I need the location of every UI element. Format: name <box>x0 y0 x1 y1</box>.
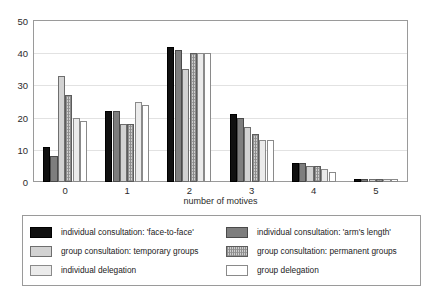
bar[interactable] <box>175 50 182 182</box>
legend-column-right: individual consultation: 'arm's length'g… <box>226 223 424 280</box>
bar[interactable] <box>361 179 368 182</box>
bar[interactable] <box>105 111 112 182</box>
bar[interactable] <box>376 179 383 182</box>
series-0-swatch <box>30 227 52 238</box>
bar[interactable] <box>135 102 142 183</box>
bar[interactable] <box>142 105 149 182</box>
legend: individual consultation: 'face-to-face'g… <box>22 215 421 286</box>
bar[interactable] <box>252 134 259 182</box>
bar[interactable] <box>204 53 211 182</box>
series-4-swatch <box>30 265 52 276</box>
series-2-swatch <box>30 246 52 257</box>
legend-item[interactable]: individual delegation <box>30 261 228 280</box>
bar[interactable] <box>182 69 189 182</box>
x-axis-tick-label: 5 <box>373 185 378 196</box>
x-axis-tick-label: 2 <box>187 185 192 196</box>
legend-item-label: individual consultation: 'face-to-face' <box>61 228 194 236</box>
bar[interactable] <box>329 172 336 182</box>
bar[interactable] <box>321 169 328 182</box>
series-5-swatch <box>226 265 248 276</box>
bar[interactable] <box>50 156 57 182</box>
bar[interactable] <box>73 118 80 182</box>
top-cutoff-caption <box>26 0 326 6</box>
y-axis: 01020304050 <box>0 20 33 183</box>
bar[interactable] <box>314 166 321 182</box>
legend-item[interactable]: group delegation <box>226 261 424 280</box>
bar-group <box>230 21 274 182</box>
legend-item-label: group consultation: temporary groups <box>61 247 198 255</box>
bar[interactable] <box>120 124 127 182</box>
y-axis-tick-label: 10 <box>17 144 28 155</box>
legend-item-label: group delegation <box>257 266 319 274</box>
legend-item-label: group consultation: permanent groups <box>257 247 397 255</box>
chart-screenshot: 01020304050 012345 number of motives ind… <box>0 0 443 301</box>
bar[interactable] <box>259 140 266 182</box>
y-axis-tick-label: 50 <box>17 16 28 27</box>
bar[interactable] <box>190 53 197 182</box>
bar[interactable] <box>80 121 87 182</box>
bar[interactable] <box>391 179 398 182</box>
x-axis-tick-label: 4 <box>311 185 316 196</box>
legend-item[interactable]: group consultation: permanent groups <box>226 242 424 261</box>
legend-column-left: individual consultation: 'face-to-face'g… <box>30 223 228 280</box>
legend-item[interactable]: individual consultation: 'face-to-face' <box>30 223 228 242</box>
x-axis-tick-label: 1 <box>125 185 130 196</box>
y-axis-tick-label: 20 <box>17 112 28 123</box>
y-axis-tick-label: 30 <box>17 80 28 91</box>
legend-item-label: individual consultation: 'arm's length' <box>257 228 391 236</box>
series-1-swatch <box>226 227 248 238</box>
bar[interactable] <box>299 163 306 182</box>
bar[interactable] <box>230 114 237 182</box>
bar[interactable] <box>197 53 204 182</box>
bar[interactable] <box>267 140 274 182</box>
y-axis-tick-label: 40 <box>17 48 28 59</box>
bar[interactable] <box>292 163 299 182</box>
bar[interactable] <box>306 166 313 182</box>
bar[interactable] <box>244 127 251 182</box>
bar-group <box>292 21 336 182</box>
bar[interactable] <box>65 95 72 182</box>
bar[interactable] <box>167 47 174 182</box>
bar[interactable] <box>127 124 134 182</box>
bar[interactable] <box>237 118 244 182</box>
legend-item-label: individual delegation <box>61 266 136 274</box>
bar-group <box>354 21 398 182</box>
legend-item[interactable]: individual consultation: 'arm's length' <box>226 223 424 242</box>
bars-layer <box>34 21 407 182</box>
bar[interactable] <box>58 76 65 182</box>
x-axis-title: number of motives <box>33 196 408 206</box>
bar[interactable] <box>43 147 50 182</box>
y-axis-tick-label: 0 <box>23 177 28 188</box>
bar-group <box>105 21 149 182</box>
bar[interactable] <box>383 179 390 182</box>
x-axis-tick-label: 3 <box>249 185 254 196</box>
bar[interactable] <box>369 179 376 182</box>
bar-group <box>167 21 211 182</box>
bar-group <box>43 21 87 182</box>
x-axis-tick-label: 0 <box>62 185 67 196</box>
bar[interactable] <box>113 111 120 182</box>
legend-item[interactable]: group consultation: temporary groups <box>30 242 228 261</box>
series-3-swatch <box>226 246 248 257</box>
bar[interactable] <box>354 179 361 182</box>
